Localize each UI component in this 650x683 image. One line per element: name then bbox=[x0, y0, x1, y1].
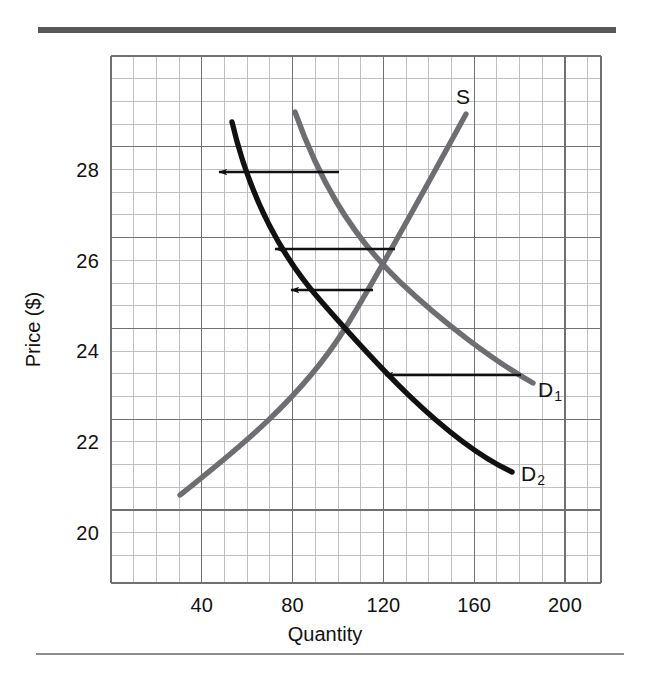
y-tick-label-24: 24 bbox=[53, 340, 99, 363]
x-tick-label-40: 40 bbox=[190, 594, 213, 617]
x-tick-label-80: 80 bbox=[281, 594, 304, 617]
y-axis-title: Price ($) bbox=[22, 250, 45, 410]
y-tick-label-28: 28 bbox=[53, 158, 99, 181]
demand-curve-2-label: D2 bbox=[521, 462, 544, 486]
x-tick-label-120: 120 bbox=[366, 594, 400, 617]
supply-curve-label-text: S bbox=[456, 85, 470, 108]
x-tick-label-160: 160 bbox=[457, 594, 491, 617]
supply-curve-label: S bbox=[456, 85, 470, 109]
supply-demand-figure: 40 80 120 160 200 20 22 24 26 28 Quantit… bbox=[0, 0, 650, 683]
demand-curve-1-label-text: D bbox=[538, 378, 553, 401]
x-tick-label-200: 200 bbox=[548, 594, 582, 617]
demand-curve-2-label-text: D bbox=[521, 462, 536, 485]
demand-curve-1-label-subscript: 1 bbox=[554, 388, 562, 404]
plot-background bbox=[111, 56, 601, 583]
x-axis-title: Quantity bbox=[0, 623, 650, 646]
y-tick-label-20: 20 bbox=[53, 521, 99, 544]
demand-curve-2-label-subscript: 2 bbox=[537, 472, 545, 488]
bottom-divider-rule bbox=[36, 653, 624, 655]
demand-curve-1-label: D1 bbox=[538, 378, 561, 402]
y-tick-label-22: 22 bbox=[53, 431, 99, 454]
y-tick-label-26: 26 bbox=[53, 249, 99, 272]
